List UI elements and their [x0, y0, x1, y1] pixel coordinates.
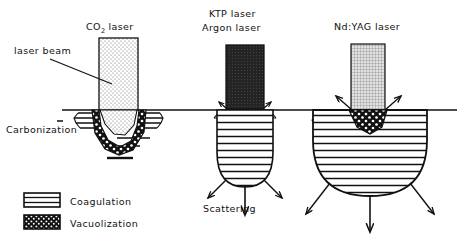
legend: Coagulation Vacuolization: [24, 193, 138, 229]
panel-ndyag: Nd:YAG laser: [306, 21, 434, 232]
ktp-beam: [226, 45, 264, 109]
co2-title-tail: laser: [108, 21, 133, 32]
panel-ktp-argon: KTP laser Argon laser Scattering: [202, 8, 282, 215]
ndyag-beam: [351, 44, 385, 110]
carbonization-label: Carbonization: [6, 124, 77, 135]
laser-beam-label: laser beam: [14, 45, 71, 56]
ktp-coagulation-zone: [217, 110, 273, 187]
ndyag-title: Nd:YAG laser: [334, 21, 400, 32]
panel-co2: CO2laser laser beam Carbonization: [6, 21, 163, 158]
legend-swatch-coagulation: [24, 193, 60, 207]
ktp-title: KTP laser Argon laser: [202, 8, 261, 33]
legend-label-vacuolization: Vacuolization: [70, 218, 138, 229]
legend-item-coagulation: Coagulation: [24, 193, 131, 207]
svg-text:CO2laser: CO2laser: [86, 21, 134, 35]
laser-tissue-diagram: CO2laser laser beam Carbonization: [0, 0, 457, 245]
co2-title: CO2laser: [86, 21, 134, 35]
diagram-canvas: CO2laser laser beam Carbonization: [0, 0, 457, 245]
co2-ablation-cavity: [100, 110, 137, 135]
carbonization-callout: Carbonization: [6, 121, 77, 135]
scattering-label: Scattering: [203, 203, 256, 214]
co2-beam: [99, 38, 138, 110]
co2-title-main: CO: [86, 21, 101, 32]
ktp-title-line2: Argon laser: [202, 22, 261, 33]
legend-label-coagulation: Coagulation: [70, 196, 131, 207]
legend-item-vacuolization: Vacuolization: [24, 215, 138, 229]
co2-title-subscript: 2: [101, 27, 106, 35]
legend-swatch-vacuolization: [24, 215, 60, 229]
ktp-title-line1: KTP laser: [209, 8, 256, 19]
laser-beam-callout: laser beam: [14, 45, 112, 84]
